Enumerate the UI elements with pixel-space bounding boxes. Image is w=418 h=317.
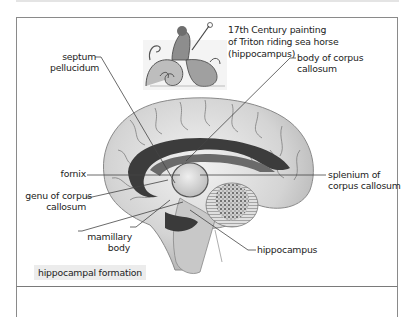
label-line: callosum <box>297 63 363 74</box>
triton-painting-image <box>143 23 227 91</box>
label-hippocampus: hippocampus <box>257 244 317 255</box>
label-fornix: fornix <box>40 168 86 179</box>
label-line: septum <box>50 51 96 62</box>
label-line: corpus callosum <box>328 180 401 191</box>
label-splenium-of-corpus-callosum: splenium of corpus callosum <box>328 169 401 191</box>
label-mamillary-body: mamillary body <box>80 231 132 253</box>
label-line: splenium of <box>328 169 401 180</box>
label-line: pellucidum <box>50 62 96 73</box>
painting-caption-line-2: of Triton riding sea horse <box>228 36 338 48</box>
label-line: fornix <box>40 168 86 179</box>
label-line: hippocampus <box>257 244 317 255</box>
label-line: mamillary <box>80 231 132 242</box>
label-septum-pellucidum: septum pellucidum <box>50 51 96 73</box>
painting-caption-line-1: 17th Century painting <box>228 24 338 36</box>
label-line: body of corpus <box>297 52 363 63</box>
label-line: callosum <box>20 201 92 212</box>
figure-caption: hippocampal formation <box>34 265 146 280</box>
label-line: genu of corpus <box>20 190 92 201</box>
label-body-of-corpus-callosum: body of corpus callosum <box>297 52 363 74</box>
label-genu-of-corpus-callosum: genu of corpus callosum <box>20 190 92 212</box>
label-line: body <box>80 242 132 253</box>
